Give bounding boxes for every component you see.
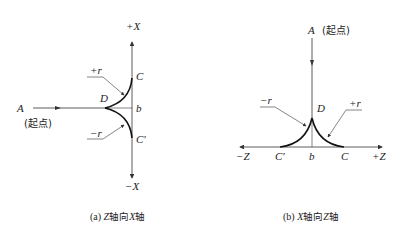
minus-x-label: −X	[125, 180, 140, 192]
caption-a: (a) Z轴向X轴	[90, 211, 145, 223]
start-label: (起点)	[322, 25, 350, 36]
minus-z-label: −Z	[236, 150, 250, 162]
start-label: (起点)	[24, 118, 52, 129]
figure-a: +X −X A (起点) D C C' b +r −r (a) Z轴向X轴	[16, 20, 146, 223]
point-a-label: A	[307, 24, 315, 36]
point-c-label: C	[136, 70, 144, 82]
minus-r-label: −r	[90, 127, 102, 139]
direction-arrow-icon	[55, 106, 61, 110]
b-label: b	[309, 150, 315, 162]
plus-r-arc	[312, 118, 344, 147]
figure-b: A (起点) D C' b C −Z +Z −r +r (b) X轴向Z轴	[236, 24, 386, 223]
plus-r-label: +r	[349, 97, 361, 109]
minus-r-leader	[260, 107, 306, 126]
caption-b: (b) X轴向Z轴	[283, 211, 339, 223]
plus-r-label: +r	[90, 64, 102, 76]
plus-x-label: +X	[126, 20, 141, 32]
point-a-label: A	[16, 102, 24, 114]
point-c-prime-label: C'	[136, 133, 146, 145]
point-d-label: D	[99, 92, 108, 104]
minus-r-arc	[280, 118, 312, 147]
minus-r-label: −r	[260, 94, 272, 106]
diagram-canvas: +X −X A (起点) D C C' b +r −r (a) Z轴向X轴 A …	[0, 0, 399, 230]
b-label: b	[136, 102, 142, 114]
point-d-label: D	[316, 102, 325, 114]
minus-r-arc	[105, 108, 132, 138]
plus-r-leader	[328, 110, 362, 137]
direction-arrow-icon	[310, 60, 314, 66]
point-c-prime-label: C'	[275, 150, 285, 162]
point-c-label: C	[341, 150, 349, 162]
plus-z-label: +Z	[372, 150, 386, 162]
